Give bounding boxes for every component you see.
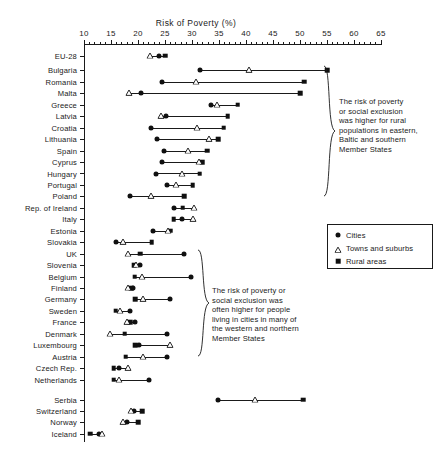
marker-rural-areas: [132, 274, 137, 279]
marker-towns-and-suburbs: [251, 396, 258, 402]
series-connector: [218, 400, 303, 401]
x-tick-label: 45: [263, 29, 283, 38]
series-connector: [162, 82, 304, 83]
category-tick: [80, 411, 84, 412]
marker-cities: [179, 217, 184, 222]
marker-cities: [198, 68, 203, 73]
marker-rural-areas: [197, 171, 202, 176]
category-label-eu-28: EU-28: [55, 51, 77, 60]
category-label-hungary: Hungary: [47, 169, 77, 178]
category-tick: [80, 93, 84, 94]
marker-rural-areas: [301, 397, 306, 402]
legend-marker-cities: [336, 233, 341, 238]
marker-rural-areas: [136, 420, 141, 425]
series-connector: [126, 357, 168, 358]
category-label-czech-rep: Czech Rep.: [36, 364, 77, 373]
legend-marker-rural-areas: [336, 259, 341, 264]
category-label-bulgaria: Bulgaria: [48, 66, 77, 75]
marker-towns-and-suburbs: [245, 67, 252, 73]
marker-rural-areas: [140, 409, 145, 414]
marker-rural-areas: [298, 91, 303, 96]
category-label-cyprus: Cyprus: [52, 158, 77, 167]
category-label-serbia: Serbia: [54, 395, 77, 404]
marker-cities: [160, 79, 165, 84]
category-label-denmark: Denmark: [45, 329, 77, 338]
marker-rural-areas: [111, 366, 116, 371]
marker-cities: [167, 297, 172, 302]
annotation-line: living in cities in many of: [212, 315, 330, 325]
category-tick: [80, 434, 84, 435]
category-label-croatia: Croatia: [51, 123, 77, 132]
marker-towns-and-suburbs: [120, 419, 127, 425]
marker-towns-and-suburbs: [132, 262, 139, 268]
marker-rural-areas: [302, 80, 307, 85]
legend-label-cities: Cities: [346, 231, 366, 240]
annotation-line: was higher for rural: [339, 116, 443, 126]
category-tick: [80, 219, 84, 220]
marker-cities: [147, 377, 152, 382]
category-label-belgium: Belgium: [49, 272, 78, 281]
annotation-line: often higher for people: [212, 305, 330, 315]
marker-rural-areas: [216, 137, 221, 142]
marker-towns-and-suburbs: [116, 307, 123, 313]
x-tick-label: 25: [155, 29, 175, 38]
category-label-romania: Romania: [46, 77, 77, 86]
marker-cities: [114, 240, 119, 245]
category-label-luxembourg: Luxembourg: [33, 341, 77, 350]
marker-rural-areas: [149, 240, 154, 245]
category-tick: [80, 105, 84, 106]
annotation-line: The risk of poverty or: [212, 286, 330, 296]
marker-cities: [161, 148, 166, 153]
marker-cities: [117, 366, 122, 371]
annotation-line: Baltic and southern: [339, 135, 443, 145]
marker-towns-and-suburbs: [167, 342, 174, 348]
marker-cities: [156, 53, 161, 58]
x-tick-label: 65: [371, 29, 391, 38]
marker-rural-areas: [236, 103, 241, 108]
category-label-portugal: Portugal: [48, 180, 77, 189]
category-label-austria: Austria: [52, 352, 77, 361]
marker-towns-and-suburbs: [126, 90, 133, 96]
series-connector: [130, 196, 184, 197]
category-label-france: France: [52, 318, 77, 327]
category-label-latvia: Latvia: [56, 112, 77, 121]
marker-cities: [151, 228, 156, 233]
marker-towns-and-suburbs: [193, 78, 200, 84]
marker-rural-areas: [181, 206, 186, 211]
category-tick: [80, 357, 84, 358]
annotation-upper: The risk of povertyor social exclusionwa…: [339, 97, 443, 155]
marker-towns-and-suburbs: [205, 136, 212, 142]
category-label-malta: Malta: [58, 89, 77, 98]
category-tick: [80, 173, 84, 174]
marker-rural-areas: [138, 251, 143, 256]
category-tick: [80, 334, 84, 335]
annotation-lower: The risk of poverty orsocial exclusion w…: [212, 286, 330, 344]
annotation-line: social exclusion was: [212, 296, 330, 306]
marker-cities: [165, 354, 170, 359]
x-tick-label: 35: [209, 29, 229, 38]
category-label-slovakia: Slovakia: [47, 238, 77, 247]
series-connector: [128, 254, 184, 255]
marker-towns-and-suburbs: [190, 216, 197, 222]
marker-towns-and-suburbs: [164, 227, 171, 233]
marker-towns-and-suburbs: [213, 101, 220, 107]
category-tick: [80, 277, 84, 278]
x-tick-label: 20: [128, 29, 148, 38]
category-label-uk: UK: [66, 249, 77, 258]
x-tick-label: 60: [344, 29, 364, 38]
category-tick: [80, 116, 84, 117]
category-tick: [80, 151, 84, 152]
annotation-line: The risk of poverty: [339, 97, 443, 107]
marker-towns-and-suburbs: [191, 204, 198, 210]
marker-towns-and-suburbs: [127, 407, 134, 413]
category-label-poland: Poland: [52, 192, 77, 201]
brace-lower-group: [196, 248, 212, 358]
marker-towns-and-suburbs: [185, 147, 192, 153]
marker-cities: [132, 320, 137, 325]
annotation-line: populations in eastern,: [339, 126, 443, 136]
axis-title: Risk of Poverty (%): [156, 18, 236, 28]
category-label-spain: Spain: [57, 146, 77, 155]
marker-cities: [159, 160, 164, 165]
category-tick: [80, 311, 84, 312]
category-tick: [80, 128, 84, 129]
